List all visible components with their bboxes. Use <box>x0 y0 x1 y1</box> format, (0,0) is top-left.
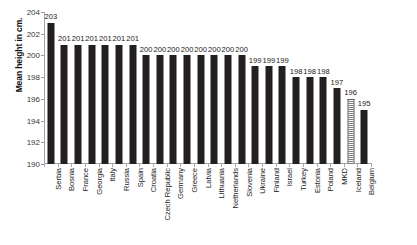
bar[interactable] <box>347 99 354 164</box>
bar[interactable] <box>224 55 231 164</box>
bar[interactable] <box>252 66 259 164</box>
x-tick-mark <box>153 164 154 167</box>
bar[interactable] <box>170 55 177 164</box>
bar[interactable] <box>306 77 313 164</box>
bar-value-label: 201 <box>99 34 112 43</box>
bar[interactable] <box>143 55 150 164</box>
bar-slot: 200 <box>235 12 249 164</box>
x-axis-category-label: Finland <box>272 168 281 193</box>
bar-value-label: 198 <box>303 67 316 76</box>
x-axis-category-label: Spain <box>136 168 145 187</box>
x-tick-mark <box>344 164 345 167</box>
bar-value-label: 195 <box>358 99 371 108</box>
y-tick-label: 196 <box>27 94 40 103</box>
bar[interactable] <box>184 55 191 164</box>
bar-value-label: 201 <box>72 34 85 43</box>
bar-value-label: 199 <box>262 56 275 65</box>
bar[interactable] <box>279 66 286 164</box>
x-tick-mark <box>180 164 181 167</box>
x-axis-category-label: Belgium <box>367 168 376 195</box>
bar[interactable] <box>333 88 340 164</box>
bar-slot: 200 <box>139 12 153 164</box>
x-tick-mark <box>221 164 222 167</box>
x-tick-mark <box>357 164 358 167</box>
bar[interactable] <box>265 66 272 164</box>
bar-slot: 197 <box>330 12 344 164</box>
x-axis-category-label: Poland <box>326 168 335 191</box>
x-tick-mark <box>112 164 113 167</box>
y-tick-label: 202 <box>27 29 40 38</box>
bar[interactable] <box>115 45 122 164</box>
bar-slot: 201 <box>126 12 140 164</box>
bar-slot: 199 <box>262 12 276 164</box>
bar[interactable] <box>75 45 82 164</box>
x-tick-mark <box>85 164 86 167</box>
bar[interactable] <box>293 77 300 164</box>
bar-slot: 200 <box>180 12 194 164</box>
bar-value-label: 198 <box>290 67 303 76</box>
x-axis-category-label: Bosnia <box>67 168 76 191</box>
x-tick-mark <box>276 164 277 167</box>
bar-slot: 198 <box>317 12 331 164</box>
y-tick-label: 200 <box>27 51 40 60</box>
bar[interactable] <box>61 45 68 164</box>
bar-slot: 198 <box>303 12 317 164</box>
bar-slot: 201 <box>85 12 99 164</box>
x-axis-category-label: Latvia <box>204 168 213 188</box>
bar-value-label: 201 <box>113 34 126 43</box>
bar-value-label: 199 <box>249 56 262 65</box>
bar-value-label: 203 <box>44 12 57 21</box>
x-tick-mark <box>303 164 304 167</box>
bar-slot: 195 <box>357 12 371 164</box>
bar-value-label: 200 <box>140 45 153 54</box>
y-tick-label: 190 <box>27 160 40 169</box>
bar-value-label: 201 <box>85 34 98 43</box>
bar-slot: 201 <box>71 12 85 164</box>
bar-slot: 199 <box>248 12 262 164</box>
bar-value-label: 197 <box>331 78 344 87</box>
x-axis-category-label: Ukraine <box>258 168 267 194</box>
bar-value-label: 200 <box>194 45 207 54</box>
bar-value-label: 201 <box>58 34 71 43</box>
bar-slot: 201 <box>112 12 126 164</box>
bar-slot: 200 <box>221 12 235 164</box>
bar[interactable] <box>102 45 109 164</box>
bar[interactable] <box>361 110 368 164</box>
bar-slot: 199 <box>276 12 290 164</box>
bar-value-label: 200 <box>235 45 248 54</box>
x-tick-mark <box>330 164 331 167</box>
x-tick-mark <box>289 164 290 167</box>
y-tick-label: 198 <box>27 73 40 82</box>
bar[interactable] <box>320 77 327 164</box>
bar[interactable] <box>211 55 218 164</box>
bar[interactable] <box>88 45 95 164</box>
plot-area: 190192194196198200202204 203201201201201… <box>44 12 371 164</box>
x-axis-category-label: Czech Republic <box>163 168 172 220</box>
bar[interactable] <box>238 55 245 164</box>
x-axis-category-label: Russia <box>122 168 131 191</box>
x-axis-category-label: Iceland <box>354 168 363 192</box>
bar[interactable] <box>129 45 136 164</box>
bar-slot: 200 <box>153 12 167 164</box>
x-tick-mark <box>167 164 168 167</box>
x-axis-category-label: Italy <box>108 168 117 182</box>
x-tick-mark <box>71 164 72 167</box>
x-tick-mark <box>126 164 127 167</box>
x-tick-mark <box>44 164 45 167</box>
x-axis-category-label: Serbia <box>54 168 63 190</box>
x-tick-mark <box>99 164 100 167</box>
x-tick-mark <box>248 164 249 167</box>
y-tick-label: 204 <box>27 8 40 17</box>
y-axis-title: Mean height in cm. <box>14 0 24 110</box>
bar[interactable] <box>197 55 204 164</box>
x-axis-category-label: Slovenia <box>245 168 254 197</box>
bar-value-label: 200 <box>208 45 221 54</box>
bar-slot: 201 <box>58 12 72 164</box>
x-tick-mark <box>194 164 195 167</box>
x-axis-category-label: Netherlands <box>231 168 240 208</box>
bar-slot: 200 <box>208 12 222 164</box>
bar-chart: Mean height in cm. 190192194196198200202… <box>0 0 417 245</box>
bar[interactable] <box>156 55 163 164</box>
bar[interactable] <box>47 23 54 164</box>
x-axis-category-label: France <box>81 168 90 191</box>
